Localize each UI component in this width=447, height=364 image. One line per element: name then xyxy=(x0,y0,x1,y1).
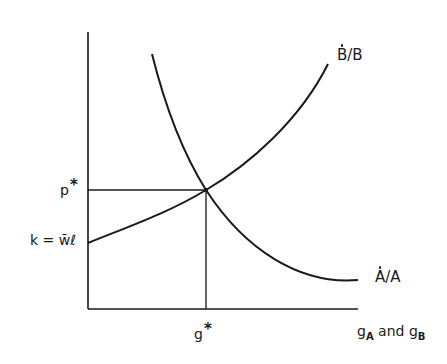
x-label-and: and xyxy=(374,323,409,339)
a-dot-letter: A xyxy=(375,270,385,285)
b-dot-letter: B xyxy=(337,48,347,63)
a-dot-over-a-label: A/A xyxy=(375,270,401,285)
p-star-label: p* xyxy=(60,178,78,197)
a-letter: A xyxy=(390,268,400,286)
intercept-l: ℓ xyxy=(70,232,76,248)
x-axis-label: gA and gB xyxy=(357,324,425,342)
g-star-asterisk: * xyxy=(204,320,212,338)
x-label-sub-a: A xyxy=(366,331,374,342)
equilibrium-point xyxy=(204,188,208,192)
g-star-label: g* xyxy=(194,322,212,341)
x-label-sub-b: B xyxy=(418,331,426,342)
x-label-g-a: g xyxy=(357,323,366,339)
intercept-k: k xyxy=(30,232,38,248)
p-label-text: p xyxy=(60,182,69,198)
g-label-text: g xyxy=(194,326,203,342)
x-label-g-b: g xyxy=(409,323,418,339)
b-dot-over-b-label: B/B xyxy=(337,48,363,63)
intercept-equals: = xyxy=(38,232,59,248)
b-letter: B xyxy=(352,46,362,64)
b-dot-over-b-curve xyxy=(88,64,328,243)
intercept-label: k = w̄ℓ xyxy=(30,233,76,247)
a-dot-over-a-curve xyxy=(152,54,358,280)
p-star-asterisk: * xyxy=(70,176,78,194)
intercept-w-bar: w̄ xyxy=(59,232,70,248)
